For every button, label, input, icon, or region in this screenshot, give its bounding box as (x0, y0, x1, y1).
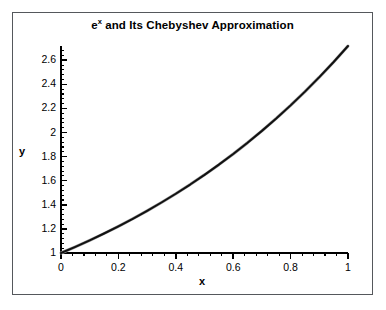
y-tick-label: 1 (50, 246, 56, 258)
y-tick-label: 1.4 (41, 198, 56, 210)
y-tick-label: 2 (50, 126, 56, 138)
axes-group (61, 46, 348, 259)
x-tick-label: 0.2 (98, 261, 138, 273)
x-tick-label: 1 (328, 261, 368, 273)
x-tick-label: 0.8 (271, 261, 311, 273)
x-tick-label: 0 (41, 261, 81, 273)
y-axis-label: y (19, 145, 25, 157)
x-axis-label: x (199, 275, 205, 287)
y-tick-label: 2.2 (41, 101, 56, 113)
series-line-1 (61, 46, 348, 253)
y-tick-label: 1.2 (41, 222, 56, 234)
x-tick-label: 0.4 (156, 261, 196, 273)
series-line-0 (61, 46, 348, 253)
y-tick-label: 1.8 (41, 150, 56, 162)
y-tick-label: 2.4 (41, 77, 56, 89)
y-tick-label: 1.6 (41, 174, 56, 186)
chart-figure: ex and Its Chebyshev Approximation y x 1… (0, 0, 386, 310)
series-group (61, 46, 348, 253)
x-tick-label: 0.6 (213, 261, 253, 273)
y-tick-label: 2.6 (41, 53, 56, 65)
